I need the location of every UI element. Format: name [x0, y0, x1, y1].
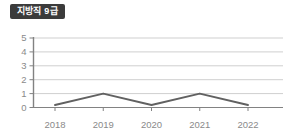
y-axis-label: 1: [21, 88, 26, 99]
line-chart: 54321020182019202020212022: [0, 0, 289, 140]
x-axis-label: 2022: [237, 119, 258, 130]
y-axis-label: 3: [21, 60, 26, 71]
x-axis-label: 2019: [93, 119, 114, 130]
y-axis-label: 0: [21, 102, 26, 113]
y-axis-label: 4: [21, 46, 26, 57]
chart-card: { "title_badge": "지방직 9급", "colors": { "…: [0, 0, 289, 140]
y-axis-label: 2: [21, 74, 26, 85]
x-axis-label: 2021: [189, 119, 210, 130]
x-axis-label: 2018: [44, 119, 65, 130]
x-axis-label: 2020: [141, 119, 162, 130]
data-line-series: [55, 94, 248, 105]
y-axis-label: 5: [21, 32, 26, 43]
